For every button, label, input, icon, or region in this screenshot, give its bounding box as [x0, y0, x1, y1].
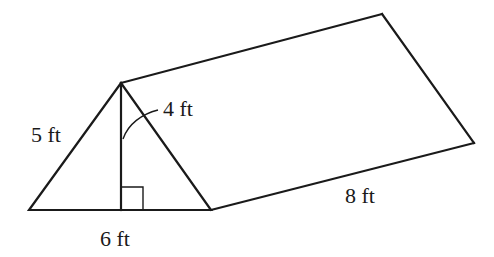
height-leader-line [123, 110, 158, 139]
bottom-length-edge [211, 143, 474, 210]
slant-side-label: 5 ft [31, 122, 61, 147]
height-label: 4 ft [163, 96, 193, 121]
base-label: 6 ft [100, 226, 130, 251]
right-angle-marker [121, 187, 143, 210]
back-right-slant-edge [382, 14, 474, 143]
length-label: 8 ft [345, 183, 375, 208]
triangular-prism-diagram: 5 ft 4 ft 6 ft 8 ft [0, 0, 494, 257]
top-ridge-edge [121, 14, 382, 83]
